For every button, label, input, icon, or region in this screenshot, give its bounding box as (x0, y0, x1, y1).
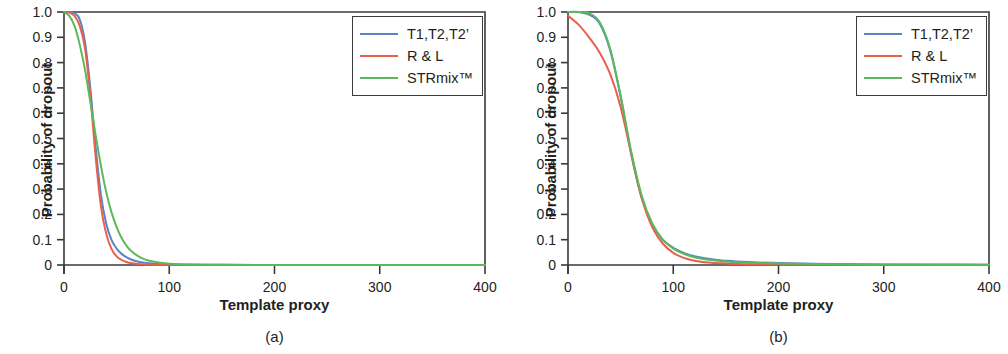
y-tick-label: 0.2 (0, 206, 52, 222)
y-tick-label: 0.3 (0, 181, 52, 197)
legend-item[interactable]: T1,T2,T2’ (864, 23, 977, 45)
y-tick-label: 0.9 (0, 29, 52, 45)
y-tick-label: 0.9 (502, 29, 556, 45)
x-tick-label: 400 (977, 279, 1000, 295)
legend-label: T1,T2,T2’ (911, 27, 973, 42)
legend-swatch-t1t2t2prime-icon (864, 33, 902, 35)
x-axis-title-a: Template proxy (64, 296, 485, 313)
legend-label: R & L (407, 49, 443, 64)
y-tick-label: 0.6 (0, 105, 52, 121)
legend-swatch-t1t2t2prime-icon (360, 33, 398, 35)
x-tick-label: 0 (564, 279, 572, 295)
y-tick-label: 0.1 (0, 232, 52, 248)
legend-swatch-rl-icon (864, 55, 902, 57)
y-tick-label: 0.1 (502, 232, 556, 248)
legend-label: T1,T2,T2’ (407, 27, 469, 42)
y-tick-label: 0.4 (502, 156, 556, 172)
x-tick-label: 300 (368, 279, 391, 295)
legend-item[interactable]: STRmix™ (360, 67, 473, 89)
legend-b[interactable]: T1,T2,T2’ R & L STRmix™ (856, 16, 987, 96)
legend-label: R & L (911, 49, 947, 64)
panel-caption-b: (b) (568, 328, 989, 345)
figure-root: Probability of dropout Template proxy (a… (0, 0, 1008, 354)
legend-a[interactable]: T1,T2,T2’ R & L STRmix™ (352, 16, 483, 96)
y-tick-label: 0.5 (0, 131, 52, 147)
chart-panel-b: Probability of dropout Template proxy (b… (504, 0, 1008, 354)
y-tick-label: 0.7 (0, 80, 52, 96)
x-axis-title-b: Template proxy (568, 296, 989, 313)
legend-swatch-strmix-icon (360, 77, 398, 79)
x-tick-label: 200 (767, 279, 790, 295)
x-tick-label: 400 (473, 279, 496, 295)
x-tick-label: 200 (263, 279, 286, 295)
y-tick-label: 0.6 (502, 105, 556, 121)
y-tick-label: 0 (502, 257, 556, 273)
x-tick-label: 100 (158, 279, 181, 295)
y-tick-label: 0.3 (502, 181, 556, 197)
y-tick-label: 0.8 (0, 55, 52, 71)
y-tick-label: 1.0 (0, 4, 52, 20)
y-tick-label: 0.7 (502, 80, 556, 96)
chart-panel-a: Probability of dropout Template proxy (a… (0, 0, 504, 354)
legend-item[interactable]: T1,T2,T2’ (360, 23, 473, 45)
x-tick-label: 100 (662, 279, 685, 295)
y-tick-label: 0.5 (502, 131, 556, 147)
x-tick-label: 300 (872, 279, 895, 295)
panel-caption-a: (a) (64, 328, 485, 345)
y-tick-label: 0.8 (502, 55, 556, 71)
legend-label: STRmix™ (911, 71, 977, 86)
legend-label: STRmix™ (407, 71, 473, 86)
legend-swatch-strmix-icon (864, 77, 902, 79)
y-tick-label: 0 (0, 257, 52, 273)
legend-swatch-rl-icon (360, 55, 398, 57)
x-tick-label: 0 (60, 279, 68, 295)
y-tick-label: 0.4 (0, 156, 52, 172)
legend-item[interactable]: R & L (360, 45, 473, 67)
legend-item[interactable]: R & L (864, 45, 977, 67)
y-tick-label: 0.2 (502, 206, 556, 222)
legend-item[interactable]: STRmix™ (864, 67, 977, 89)
y-tick-label: 1.0 (502, 4, 556, 20)
